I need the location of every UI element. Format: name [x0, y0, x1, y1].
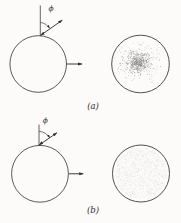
phi-label-b: ϕ	[43, 116, 48, 125]
impact-dots-gaussian	[114, 42, 161, 82]
panel-caption-a: (a)	[87, 101, 99, 111]
impact-dots-uniform	[115, 148, 166, 198]
target-circle-b	[12, 145, 69, 202]
target-circle-a	[10, 36, 67, 93]
impact-point-arrowhead-a	[41, 33, 44, 35]
deflection-arrow-a	[40, 20, 62, 36]
angle-arc-a	[40, 22, 49, 28]
phi-label-a: ϕ	[49, 4, 54, 13]
angle-arc-b	[39, 131, 50, 138]
impact-circle-b	[113, 145, 170, 202]
figure: ϕ (a) ϕ (b)	[0, 0, 181, 223]
figure-canvas: ϕ (a) ϕ (b)	[0, 0, 181, 223]
panel-b: ϕ (b)	[12, 116, 170, 215]
panel-caption-b: (b)	[87, 205, 99, 215]
panel-a: ϕ (a)	[10, 4, 169, 110]
